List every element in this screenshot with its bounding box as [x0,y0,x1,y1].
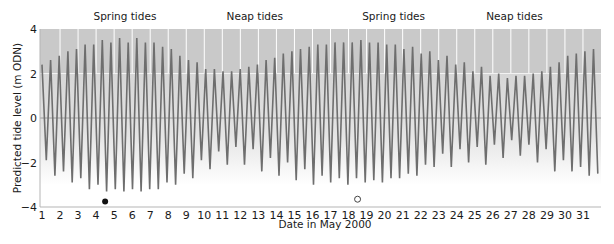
phase-label: Neap tides [486,10,542,22]
x-tick-label: 28 [522,209,536,222]
x-tick-label: 2 [57,209,64,222]
x-tick-label: 27 [504,209,518,222]
x-tick-label: 10 [197,209,211,222]
y-tick-label: −4 [21,201,37,214]
x-tick-label: 8 [165,209,172,222]
x-tick-label: 24 [450,209,464,222]
x-tick-label: 9 [183,209,190,222]
tide-phase-labels: Spring tidesNeap tidesSpring tidesNeap t… [94,10,543,22]
x-tick-label: 26 [486,209,500,222]
x-tick-label: 25 [468,209,482,222]
full-moon-marker [355,196,361,202]
x-tick-label: 21 [396,209,410,222]
phase-label: Spring tides [362,10,425,22]
x-tick-label: 11 [215,209,229,222]
x-tick-label: 23 [432,209,446,222]
x-tick-label: 6 [129,209,136,222]
x-tick-label: 29 [540,209,554,222]
x-axis-title: Date in May 2000 [278,218,371,230]
x-tick-label: 20 [378,209,392,222]
phase-label: Neap tides [227,10,283,22]
x-tick-label: 4 [93,209,100,222]
x-tick-label: 13 [251,209,265,222]
y-axis-title: Predicted tide level (m ODN) [11,43,23,193]
y-tick-label: 4 [30,23,37,36]
y-tick-label: −2 [21,157,37,170]
tide-chart: 420−2−4 12345678910111213141516171819202… [0,0,614,244]
y-tick-label: 2 [30,68,37,81]
x-tick-label: 3 [75,209,82,222]
x-tick-label: 7 [147,209,154,222]
moon-phase-markers [102,196,360,204]
top-band [40,29,601,74]
x-tick-label: 22 [414,209,428,222]
x-tick-label: 5 [111,209,118,222]
y-tick-label: 0 [30,112,37,125]
phase-label: Spring tides [94,10,157,22]
x-tick-label: 31 [576,209,590,222]
x-tick-label: 30 [558,209,572,222]
x-tick-label: 12 [233,209,247,222]
new-moon-marker [102,198,108,204]
y-tick-labels: 420−2−4 [21,23,37,214]
x-tick-label: 1 [39,209,46,222]
